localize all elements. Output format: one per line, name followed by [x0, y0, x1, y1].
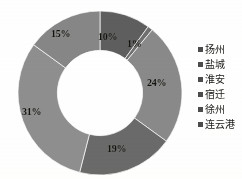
legend-item-xuzhou[interactable]: 徐州: [198, 102, 242, 116]
legend-item-suqian[interactable]: 宿迁: [198, 87, 242, 101]
legend-item-label: 扬州: [205, 44, 225, 55]
slice-label-xuzhou: 31%: [22, 106, 41, 117]
legend-swatch-icon: [198, 92, 203, 97]
legend-item-label: 淮安: [205, 74, 225, 85]
legend-item-label: 盐城: [205, 59, 225, 70]
legend-item-label: 连云港: [205, 119, 235, 130]
donut-plot-area: 10% 1% 24% 19% 31% 15%: [0, 0, 186, 179]
legend-swatch-icon: [198, 107, 203, 112]
slice-label-yancheng: 1%: [127, 38, 142, 49]
legend-item-lianyungang[interactable]: 连云港: [198, 117, 242, 131]
slice-label-suqian: 19%: [107, 143, 126, 154]
slice-label-huaian: 24%: [147, 77, 166, 88]
chart-legend: 扬州 盐城 淮安 宿迁 徐州 连云港: [198, 42, 242, 131]
donut-chart-figure: 10% 1% 24% 19% 31% 15% 扬州 盐城 淮安 宿迁 徐州 连云: [0, 0, 242, 179]
legend-item-label: 宿迁: [205, 89, 225, 100]
legend-item-yancheng[interactable]: 盐城: [198, 57, 242, 71]
legend-swatch-icon: [198, 77, 203, 82]
legend-swatch-icon: [198, 62, 203, 67]
donut-svg: [0, 0, 186, 179]
legend-swatch-icon: [198, 47, 203, 52]
slice-label-yangzhou: 10%: [98, 31, 117, 42]
legend-item-huaian[interactable]: 淮安: [198, 72, 242, 86]
slice-label-lianyungang: 15%: [51, 28, 70, 39]
legend-swatch-icon: [198, 122, 203, 127]
legend-item-label: 徐州: [205, 104, 225, 115]
legend-item-yangzhou[interactable]: 扬州: [198, 42, 242, 56]
